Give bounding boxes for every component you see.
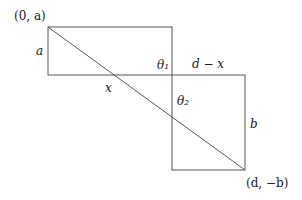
- label-theta1: θ₁: [157, 58, 169, 72]
- upper-rectangle: [48, 27, 172, 75]
- lower-rectangle: [172, 75, 245, 170]
- label-bottom-right-point: (d, −b): [246, 176, 288, 190]
- label-top-left-point: (0, a): [14, 9, 46, 23]
- label-right-segment: d − x: [192, 57, 224, 71]
- label-theta2: θ₂: [177, 94, 189, 108]
- diagonal-line: [48, 27, 245, 170]
- label-bottom-segment: x: [105, 81, 112, 95]
- diagram-canvas: (0, a) a x θ₁ d − x θ₂ b (d, −b): [0, 0, 302, 200]
- label-right-side: b: [250, 117, 258, 131]
- label-left-side: a: [36, 44, 43, 58]
